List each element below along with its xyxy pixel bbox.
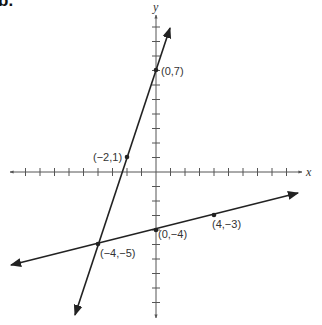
point-neg2-1 [125,155,130,160]
point-label-4-neg3: (4,−3) [212,218,241,230]
coordinate-plane: x y (0,7) (−2,1) (0,−4) (4,−3) (−4,−5) [0,0,322,325]
point-neg4-neg5 [96,242,101,247]
point-0-7 [154,68,159,73]
point-label-neg2-1: (−2,1) [93,151,122,163]
point-label-0-neg4: (0,−4) [158,228,187,240]
point-label-neg4-neg5: (−4,−5) [100,247,135,259]
x-axis-label: x [305,165,312,179]
point-4-neg3 [212,213,217,218]
point-label-0-7: (0,7) [161,65,184,77]
y-axis-label: y [152,0,159,14]
